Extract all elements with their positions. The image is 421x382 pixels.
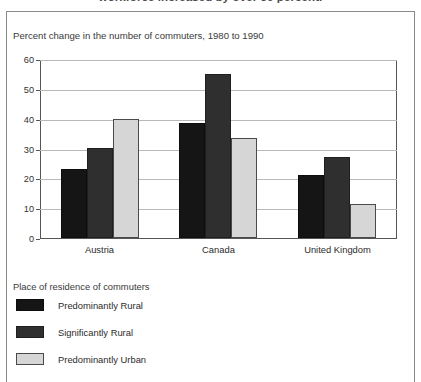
y-axis-tick-mark <box>36 239 40 240</box>
legend-title: Place of residence of commuters <box>13 281 150 292</box>
y-axis-tick-mark <box>36 60 40 61</box>
x-axis-labels: AustriaCanadaUnited Kingdom <box>40 244 397 255</box>
legend-item-label: Predominantly Urban <box>58 354 146 365</box>
y-axis-tick-label: 10 <box>24 204 34 214</box>
bar <box>350 204 376 238</box>
y-axis-tick-label: 30 <box>24 145 34 155</box>
bar <box>231 138 257 238</box>
bar <box>298 175 324 238</box>
y-axis-tick-label: 50 <box>24 85 34 95</box>
y-axis-tick-mark <box>36 209 40 210</box>
y-axis-tick-mark <box>36 179 40 180</box>
legend-swatch-icon <box>16 353 44 365</box>
chart-title: Percent change in the number of commuter… <box>13 30 264 41</box>
y-axis-tick-mark <box>36 90 40 91</box>
plot-wrapper: 0102030405060 <box>40 60 397 239</box>
legend-swatch-icon <box>16 299 44 311</box>
legend-item-label: Predominantly Rural <box>58 300 143 311</box>
y-axis-tick-label: 60 <box>24 55 34 65</box>
bars-layer <box>41 61 396 238</box>
bar-group <box>159 61 277 238</box>
cropped-caption-strip: workforce increased by over 50 percent. <box>0 0 421 10</box>
bar-group <box>41 61 159 238</box>
bar <box>87 148 113 238</box>
y-axis-tick-label: 20 <box>24 174 34 184</box>
bar <box>61 169 87 238</box>
x-axis-label: Canada <box>159 244 278 255</box>
legend-swatch-icon <box>16 326 44 338</box>
y-axis-tick-label: 0 <box>29 234 34 244</box>
y-axis-tick-mark <box>36 150 40 151</box>
bar <box>113 119 139 238</box>
y-axis-tick-mark <box>36 120 40 121</box>
bar <box>205 74 231 238</box>
bar-group <box>278 61 396 238</box>
bar <box>324 157 350 238</box>
bar <box>179 123 205 238</box>
legend-item-label: Significantly Rural <box>58 327 133 338</box>
x-axis-label: United Kingdom <box>278 244 397 255</box>
y-axis-tick-label: 40 <box>24 115 34 125</box>
cropped-caption-text: workforce increased by over 50 percent. <box>0 0 421 3</box>
legend-item-predominantly-urban: Predominantly Urban <box>16 353 146 365</box>
legend-item-predominantly-rural: Predominantly Rural <box>16 299 143 311</box>
x-axis-label: Austria <box>40 244 159 255</box>
legend-item-significantly-rural: Significantly Rural <box>16 326 133 338</box>
